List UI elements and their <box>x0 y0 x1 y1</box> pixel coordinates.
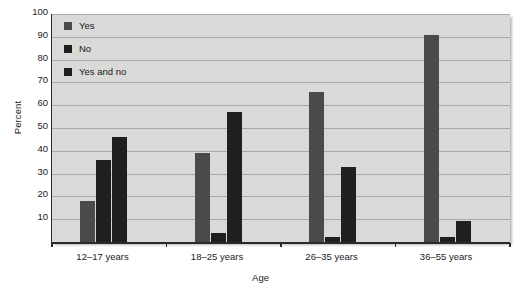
x-axis-category-label: 12–17 years <box>76 251 128 262</box>
legend-label: Yes <box>79 21 95 31</box>
legend-swatch-icon <box>63 44 73 54</box>
bar <box>456 221 471 242</box>
bar-group <box>52 14 510 242</box>
x-axis-tick <box>166 243 168 247</box>
x-axis-tick <box>280 243 282 247</box>
y-axis-tick-label: 90 <box>22 30 48 40</box>
y-axis-tick-label: 30 <box>22 167 48 177</box>
legend-label: No <box>79 44 91 54</box>
legend-item: Yes <box>63 20 95 32</box>
x-axis-title: Age <box>0 272 521 283</box>
x-axis-category-label: 36–55 years <box>420 251 472 262</box>
y-axis-tick-label: 40 <box>22 144 48 154</box>
x-axis-tick <box>395 243 397 247</box>
y-axis-tick-label: 70 <box>22 76 48 86</box>
bar <box>424 35 439 242</box>
legend-item: Yes and no <box>63 66 126 78</box>
y-axis-tick-labels: 102030405060708090100 <box>22 12 48 240</box>
x-axis-category-label: 18–25 years <box>191 251 243 262</box>
y-axis-title: Percent <box>12 83 23 153</box>
x-axis-category-label: 26–35 years <box>305 251 357 262</box>
legend-item: No <box>63 43 91 55</box>
plot-area <box>51 14 510 242</box>
y-axis-tick-label: 10 <box>22 212 48 222</box>
x-axis-tick <box>509 243 511 247</box>
y-axis-tick-label: 20 <box>22 190 48 200</box>
y-axis-tick-label: 100 <box>22 7 48 17</box>
legend-swatch-icon <box>63 21 73 31</box>
x-axis-tick <box>51 243 53 247</box>
y-axis-tick-label: 80 <box>22 53 48 63</box>
legend-label: Yes and no <box>79 67 126 77</box>
plot-inner <box>52 14 510 242</box>
y-axis-tick-label: 50 <box>22 121 48 131</box>
legend-swatch-icon <box>63 67 73 77</box>
bar-chart-figure: Percent 102030405060708090100 12–17 year… <box>0 0 521 297</box>
y-axis-tick-label: 60 <box>22 98 48 108</box>
